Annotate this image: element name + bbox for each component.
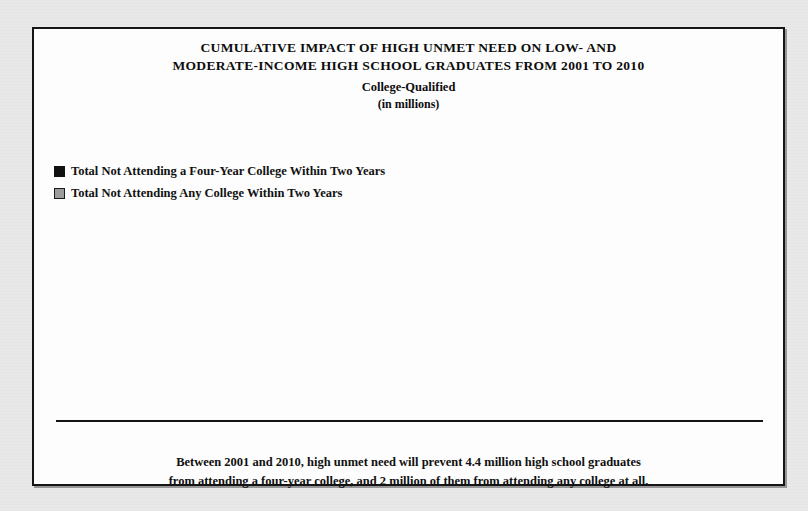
annotation-line-1: Between 2001 and 2010, high unmet need w…: [58, 453, 759, 472]
chart-frame: CUMULATIVE IMPACT OF HIGH UNMET NEED ON …: [32, 27, 785, 486]
x-axis-labels: [56, 430, 763, 450]
plot-area: [56, 29, 763, 421]
annotation-line-2: from attending a four-year college, and …: [58, 472, 759, 491]
chart-annotation: Between 2001 and 2010, high unmet need w…: [58, 453, 759, 491]
bars-container: [56, 74, 763, 394]
x-axis-line: [56, 420, 763, 422]
